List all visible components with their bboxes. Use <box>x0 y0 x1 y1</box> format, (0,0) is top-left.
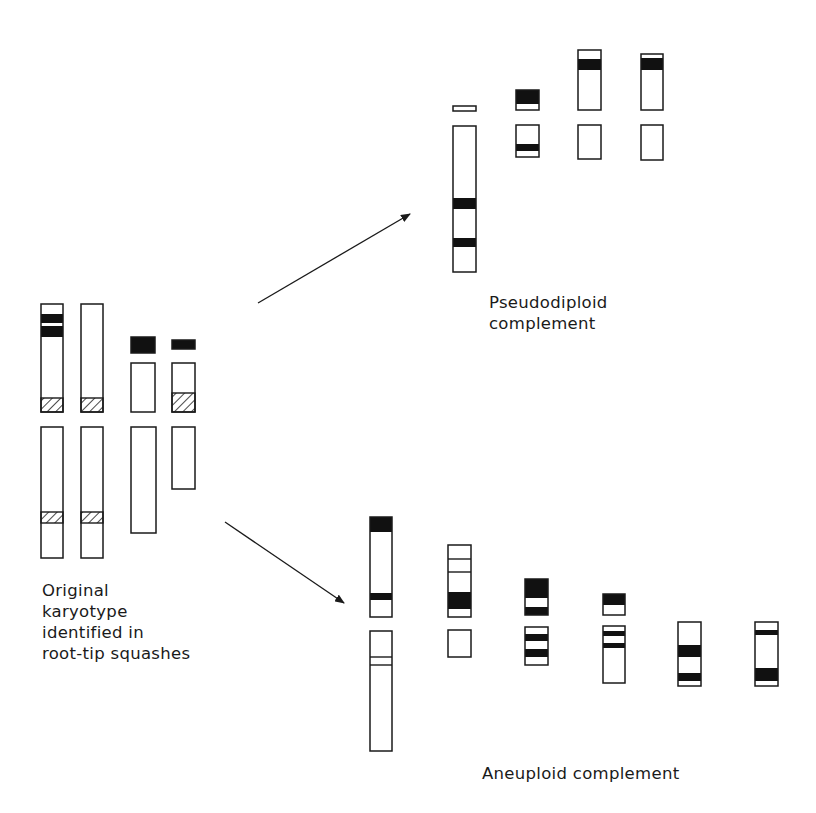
chromosome-arm <box>755 622 778 686</box>
chromosome-arm <box>131 427 156 533</box>
chromosome-arm <box>172 340 195 349</box>
chromosome-arm <box>578 50 601 110</box>
dark-band <box>525 649 548 657</box>
chromosome-arm <box>81 304 103 412</box>
heterochromatin-band <box>81 512 103 523</box>
chromosome-arm <box>172 427 195 489</box>
chromosome-arm <box>516 125 539 157</box>
label-line: complement <box>489 313 608 334</box>
pseudodiploid-complement <box>453 50 663 272</box>
dark-band <box>453 238 476 247</box>
chromosome-arm <box>448 545 471 617</box>
dark-band <box>525 634 548 641</box>
aneuploid-complement <box>370 517 778 751</box>
arrow-to-aneuploid <box>225 522 344 603</box>
label-line: Pseudodiploid <box>489 292 608 313</box>
label-line: identified in <box>42 622 190 643</box>
dark-band <box>603 631 625 636</box>
chromosome-arm <box>453 106 476 111</box>
chromosome-arm <box>453 126 476 272</box>
heterochromatin-band <box>41 512 63 523</box>
chromosome-arm <box>41 304 63 412</box>
dark-band <box>678 673 701 681</box>
chromosome-arm <box>525 627 548 665</box>
dark-band <box>41 314 63 323</box>
label-line: Aneuploid complement <box>482 763 679 784</box>
label-pseudodiploid-complement: Pseudodiploid complement <box>489 292 608 334</box>
chromosome-arm <box>370 631 392 751</box>
dark-band <box>370 593 392 600</box>
heterochromatin-band <box>41 398 63 412</box>
dark-band <box>641 58 663 70</box>
dark-band <box>678 645 701 657</box>
chromosome-arm <box>172 363 195 412</box>
label-line: karyotype <box>42 601 190 622</box>
chromosome-arm <box>370 517 392 617</box>
chromosome-arm <box>603 594 625 615</box>
chromosome-arm <box>578 125 601 159</box>
dark-band <box>603 643 625 648</box>
label-aneuploid-complement: Aneuploid complement <box>482 763 679 784</box>
chromosome-arm <box>516 90 539 110</box>
chromosome-arm <box>678 622 701 686</box>
dark-band <box>525 579 548 598</box>
dark-band <box>525 607 548 615</box>
dark-band <box>755 668 778 681</box>
dark-band <box>603 594 625 605</box>
chromosome-arm <box>131 337 155 353</box>
label-original-karyotype: Original karyotype identified in root-ti… <box>42 580 190 664</box>
chromosome-arm <box>131 363 155 412</box>
karyotype-diagram <box>0 0 816 813</box>
dark-band <box>755 630 778 635</box>
arrow-to-pseudodiploid <box>258 214 410 303</box>
dark-band <box>516 144 539 151</box>
heterochromatin-band <box>81 398 103 412</box>
label-line: Original <box>42 580 190 601</box>
label-line: root-tip squashes <box>42 643 190 664</box>
chromosome-arm <box>525 579 548 615</box>
dark-band <box>172 340 195 349</box>
chromosome-arm <box>641 125 663 160</box>
chromosome-arm <box>603 626 625 683</box>
heterochromatin-band <box>172 393 195 412</box>
chromosome-arm <box>448 630 471 657</box>
dark-band <box>41 326 63 337</box>
chromosome-arm <box>81 427 103 558</box>
dark-band <box>131 337 155 353</box>
dark-band <box>453 198 476 209</box>
original-karyotype <box>41 304 195 558</box>
chromosome-arm <box>641 54 663 110</box>
dark-band <box>370 517 392 532</box>
dark-band <box>448 592 471 609</box>
dark-band <box>578 59 601 70</box>
dark-band <box>516 90 539 104</box>
chromosome-arm <box>41 427 63 558</box>
